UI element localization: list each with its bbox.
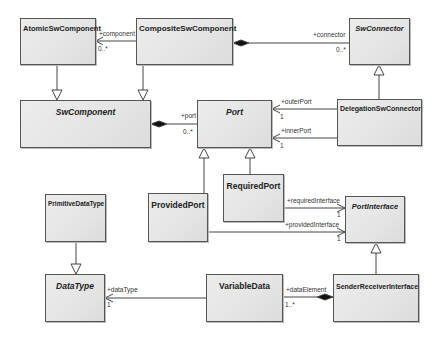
class-name: SwComponent (21, 101, 150, 117)
generalization-triangle-icon (245, 148, 255, 158)
multiplicity-label: 1 (337, 211, 341, 218)
class-provided-port[interactable]: ProvidedPort (148, 193, 208, 242)
multiplicity-label: 1 (280, 113, 284, 120)
role-label: +providedInterface (285, 221, 339, 229)
multiplicity-label: 1 (280, 142, 284, 149)
class-port[interactable]: Port (197, 100, 272, 148)
class-port-interface[interactable]: PortInterface (345, 196, 405, 243)
role-label: +requiredInterface (287, 197, 340, 205)
class-name: DelegationSwConnector (338, 100, 421, 112)
multiplicity-label: 0..* (336, 46, 346, 53)
class-name: PrimitiveDataType (46, 195, 105, 207)
class-name: SwConnector (350, 19, 409, 33)
class-composite-sw-component[interactable]: CompositeSwComponent (136, 18, 233, 65)
class-name: Port (198, 101, 271, 117)
generalization-triangle-icon (52, 90, 62, 100)
generalization-triangle-icon (374, 65, 384, 75)
class-name: ProvidedPort (149, 194, 207, 210)
role-label: +dataElement (286, 286, 326, 293)
class-name: VariableData (207, 275, 282, 291)
class-sw-connector[interactable]: SwConnector (349, 18, 410, 65)
class-atomic-sw-component[interactable]: AtomicSwComponent (20, 18, 96, 65)
role-label: +dataType (107, 286, 138, 294)
composition-diamond-icon (317, 294, 333, 300)
class-data-type[interactable]: DataType (45, 274, 105, 322)
generalization-triangle-icon (371, 243, 381, 253)
class-name: PortInterface (346, 197, 404, 211)
class-required-port[interactable]: RequiredPort (223, 174, 284, 222)
multiplicity-label: 0..* (183, 128, 193, 135)
role-label: +innerPort (281, 127, 311, 134)
role-label: +outerPort (281, 98, 312, 105)
multiplicity-label: 1..* (285, 301, 295, 308)
class-name: CompositeSwComponent (137, 19, 232, 33)
role-label: +connector (313, 31, 346, 38)
generalization-triangle-icon (138, 90, 148, 100)
multiplicity-label: 1 (107, 301, 111, 308)
uml-class-diagram: +component 0..* +connector 0..* +port 0.… (0, 0, 438, 339)
generalization-triangle-icon (199, 148, 209, 158)
composition-diamond-icon (151, 121, 167, 127)
generalization-triangle-icon (71, 264, 81, 274)
class-sender-receiver-interface[interactable]: SenderReceiverInterface (333, 274, 419, 322)
multiplicity-label: 1 (337, 235, 341, 242)
class-primitive-data-type[interactable]: PrimitiveDataType (45, 194, 106, 242)
role-label: +component (99, 30, 135, 38)
class-variable-data[interactable]: VariableData (206, 274, 283, 322)
multiplicity-label: 0..* (98, 45, 108, 52)
class-name: AtomicSwComponent (21, 19, 95, 33)
class-name: DataType (46, 275, 104, 291)
composition-diamond-icon (233, 40, 249, 46)
class-name: SenderReceiverInterface (334, 275, 418, 290)
class-sw-component[interactable]: SwComponent (20, 100, 151, 148)
class-name: RequiredPort (224, 175, 283, 191)
class-delegation-sw-connector[interactable]: DelegationSwConnector (337, 99, 422, 146)
role-label: +port (181, 112, 196, 120)
